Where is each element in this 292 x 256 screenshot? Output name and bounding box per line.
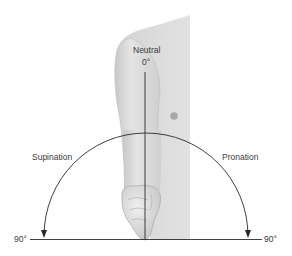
neutral-label: Neutral <box>133 46 160 55</box>
supination-label: Supination <box>32 153 72 162</box>
pronation-arrowhead <box>245 230 251 238</box>
pronation-label: Pronation <box>222 153 258 162</box>
left-90-angle-label: 90° <box>14 235 27 244</box>
anatomy-illustration <box>0 0 292 256</box>
forearm-rotation-diagram: Neutral 0° Supination Pronation 90° 90° <box>0 0 292 256</box>
right-90-angle-label: 90° <box>264 235 277 244</box>
nipple-mark <box>170 112 178 120</box>
supination-arrowhead <box>41 230 47 238</box>
forearm-shape <box>123 130 161 190</box>
neutral-angle-label: 0° <box>142 58 150 67</box>
